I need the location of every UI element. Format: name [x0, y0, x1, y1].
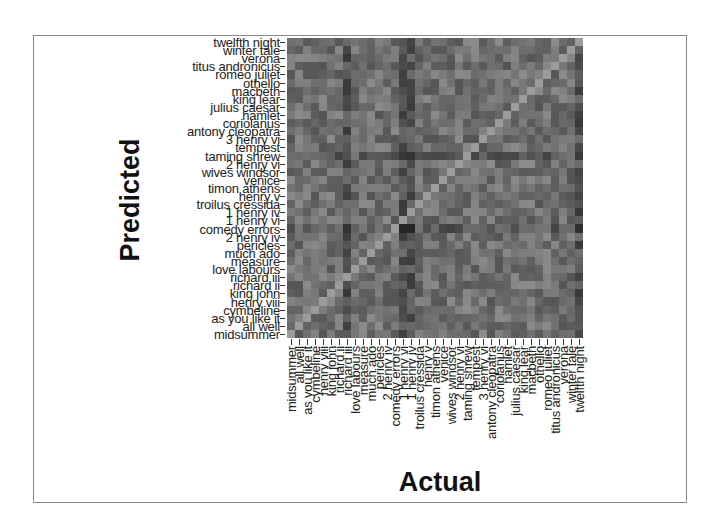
heatmap-cell: [319, 46, 327, 54]
heatmap-cell: [567, 224, 575, 232]
heatmap-cell: [519, 46, 527, 54]
heatmap-cell: [567, 103, 575, 111]
heatmap-cell: [319, 160, 327, 168]
heatmap-cell: [447, 184, 455, 192]
heatmap-cell: [503, 224, 511, 232]
heatmap-cell: [375, 314, 383, 322]
heatmap-cell: [343, 87, 351, 95]
y-tick: [280, 58, 285, 59]
heatmap-cell: [375, 322, 383, 330]
heatmap-cell: [415, 257, 423, 265]
heatmap-cell: [463, 233, 471, 241]
heatmap-cell: [287, 176, 295, 184]
heatmap-cell: [343, 192, 351, 200]
heatmap-cell: [375, 127, 383, 135]
x-tick: [579, 339, 580, 345]
heatmap-cell: [399, 152, 407, 160]
heatmap-cell: [447, 38, 455, 46]
heatmap-cell: [439, 111, 447, 119]
heatmap-cell: [423, 143, 431, 151]
heatmap-cell: [503, 143, 511, 151]
heatmap-cell: [487, 216, 495, 224]
heatmap-cell: [471, 54, 479, 62]
heatmap-cell: [303, 314, 311, 322]
heatmap-cell: [511, 249, 519, 257]
heatmap-cell: [575, 216, 583, 224]
heatmap-cell: [447, 281, 455, 289]
heatmap-cell: [439, 314, 447, 322]
heatmap-cell: [567, 87, 575, 95]
heatmap-cell: [367, 70, 375, 78]
heatmap-cell: [575, 257, 583, 265]
heatmap-cell: [511, 87, 519, 95]
heatmap-cell: [311, 200, 319, 208]
heatmap-cell: [343, 38, 351, 46]
heatmap-cell: [359, 160, 367, 168]
heatmap-cell: [543, 322, 551, 330]
heatmap-cell: [335, 306, 343, 314]
heatmap-cell: [567, 289, 575, 297]
heatmap-cell: [399, 119, 407, 127]
heatmap-cell: [287, 273, 295, 281]
heatmap-cell: [487, 38, 495, 46]
heatmap-cell: [527, 87, 535, 95]
heatmap-cell: [503, 306, 511, 314]
heatmap-cell: [559, 46, 567, 54]
heatmap-cell: [327, 257, 335, 265]
heatmap-cell: [479, 306, 487, 314]
heatmap-cell: [479, 119, 487, 127]
heatmap-cell: [311, 87, 319, 95]
heatmap-cell: [519, 103, 527, 111]
heatmap-cell: [423, 289, 431, 297]
heatmap-cell: [439, 135, 447, 143]
heatmap-cell: [559, 265, 567, 273]
heatmap-cell: [439, 184, 447, 192]
heatmap-cell: [327, 265, 335, 273]
heatmap-cell: [287, 184, 295, 192]
heatmap-cell: [471, 160, 479, 168]
heatmap-cell: [471, 233, 479, 241]
heatmap-cell: [391, 306, 399, 314]
heatmap-cell: [383, 135, 391, 143]
heatmap-cell: [519, 297, 527, 305]
heatmap-cell: [567, 249, 575, 257]
heatmap-cell: [463, 330, 471, 338]
heatmap-cell: [335, 127, 343, 135]
heatmap-cell: [439, 306, 447, 314]
heatmap-cell: [463, 208, 471, 216]
heatmap-cell: [463, 127, 471, 135]
heatmap-cell: [439, 152, 447, 160]
heatmap-cell: [303, 168, 311, 176]
heatmap-cell: [303, 273, 311, 281]
heatmap-cell: [367, 168, 375, 176]
heatmap-cell: [311, 306, 319, 314]
heatmap-cell: [479, 322, 487, 330]
heatmap-cell: [455, 62, 463, 70]
heatmap-cell: [455, 281, 463, 289]
heatmap-cell: [559, 249, 567, 257]
heatmap-cell: [527, 143, 535, 151]
heatmap-cell: [327, 103, 335, 111]
heatmap-cell: [415, 70, 423, 78]
x-tick: [491, 339, 492, 345]
heatmap-cell: [551, 330, 559, 338]
x-tick: [563, 339, 564, 345]
heatmap-cell: [359, 273, 367, 281]
heatmap-cell: [447, 216, 455, 224]
heatmap-cell: [495, 192, 503, 200]
heatmap-cell: [535, 306, 543, 314]
heatmap-cell: [543, 265, 551, 273]
heatmap-cell: [327, 119, 335, 127]
heatmap-cell: [287, 249, 295, 257]
y-tick: [280, 204, 285, 205]
heatmap-cell: [519, 135, 527, 143]
heatmap-cell: [407, 184, 415, 192]
heatmap-cell: [303, 192, 311, 200]
heatmap-cell: [439, 224, 447, 232]
heatmap-cell: [439, 192, 447, 200]
heatmap-cell: [335, 216, 343, 224]
heatmap-cell: [311, 168, 319, 176]
heatmap-cell: [543, 306, 551, 314]
heatmap-cell: [303, 46, 311, 54]
heatmap-cell: [431, 184, 439, 192]
